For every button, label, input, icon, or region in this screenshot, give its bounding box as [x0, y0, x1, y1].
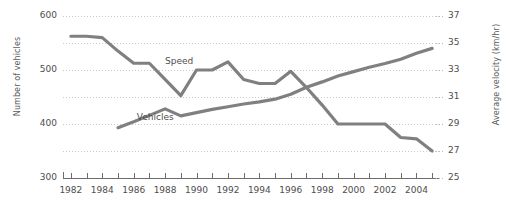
x-axis-tick-label: 1984 — [85, 185, 119, 195]
y-axis-right-tick-label: 37 — [448, 10, 474, 20]
x-axis-tick-label: 1998 — [305, 185, 339, 195]
x-axis-tick-label: 1988 — [148, 185, 182, 195]
y-axis-right-tick-label: 35 — [448, 37, 474, 47]
series-annotation-vehicles: Vehicles — [137, 112, 174, 122]
x-axis-tick-label: 1982 — [54, 185, 88, 195]
x-axis-tick-label: 1992 — [211, 185, 245, 195]
y-axis-left-tick-label: 600 — [31, 10, 57, 20]
series-line-speed — [71, 36, 432, 151]
y-axis-left-tick-label: 400 — [31, 118, 57, 128]
y-axis-right-tick-label: 25 — [448, 172, 474, 182]
y-axis-left-tick-label: 300 — [31, 172, 57, 182]
x-axis-tick-label: 1990 — [180, 185, 214, 195]
chart-container: Number of vehicles Average velocity (km/… — [0, 0, 512, 210]
x-axis-tick-label: 2004 — [399, 185, 433, 195]
series-annotation-speed: Speed — [165, 56, 193, 66]
x-axis-tick-label: 1986 — [117, 185, 151, 195]
x-axis-tick-label: 1994 — [242, 185, 276, 195]
plot-area — [0, 0, 512, 210]
x-axis-tick-label: 2000 — [337, 185, 371, 195]
x-axis-tick-label: 2002 — [368, 185, 402, 195]
y-axis-right-tick-label: 27 — [448, 145, 474, 155]
y-axis-right-tick-label: 31 — [448, 91, 474, 101]
y-axis-left-tick-label: 500 — [31, 64, 57, 74]
x-axis-tick-label: 1996 — [274, 185, 308, 195]
y-axis-right-tick-label: 29 — [448, 118, 474, 128]
y-axis-right-tick-label: 33 — [448, 64, 474, 74]
